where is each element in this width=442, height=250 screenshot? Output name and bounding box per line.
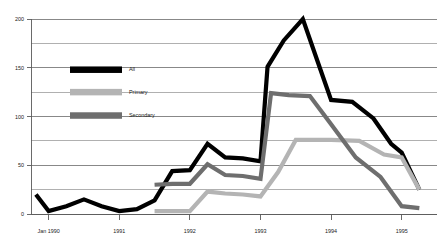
x-tick-label: Jan 1990 bbox=[38, 228, 60, 234]
chart-canvas: 050100150200 Jan 19901991199219931994199… bbox=[0, 0, 442, 250]
x-tick-label: 1992 bbox=[184, 228, 196, 234]
y-tick-label: 100 bbox=[15, 114, 24, 120]
y-tick-label: 0 bbox=[21, 211, 24, 217]
legend-swatch-all bbox=[70, 66, 122, 73]
x-tick-label: 1994 bbox=[325, 228, 337, 234]
legend-swatch-primary bbox=[70, 89, 122, 96]
y-tick-label: 150 bbox=[15, 65, 24, 71]
legend-label-secondary: Secondary bbox=[129, 112, 155, 118]
legend-label-primary: Primary bbox=[129, 89, 148, 95]
line-chart-figure: 050100150200 Jan 19901991199219931994199… bbox=[0, 0, 442, 250]
x-tick-label: 1991 bbox=[113, 228, 125, 234]
x-tick-label: 1993 bbox=[254, 228, 266, 234]
y-tick-label: 50 bbox=[18, 162, 24, 168]
legend-swatch-secondary bbox=[70, 112, 122, 119]
y-tick-label: 200 bbox=[15, 16, 24, 22]
x-tick-label: 1995 bbox=[396, 228, 408, 234]
legend-label-all: All bbox=[129, 66, 135, 72]
